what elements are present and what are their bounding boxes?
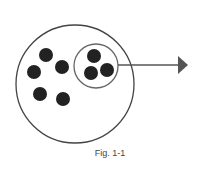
dots-inside-inner	[84, 49, 114, 80]
outer-circle	[16, 25, 134, 143]
arrow-head-icon	[178, 56, 188, 74]
dots-outside-inner	[27, 48, 70, 106]
diagram-canvas	[0, 0, 199, 169]
dot	[56, 92, 70, 106]
dot	[87, 49, 101, 63]
dot	[55, 60, 69, 74]
dot	[100, 63, 114, 77]
dot	[39, 48, 53, 62]
dot	[33, 87, 47, 101]
dot	[84, 66, 98, 80]
dot	[27, 65, 41, 79]
figure-caption: Fig. 1-1	[88, 148, 132, 158]
